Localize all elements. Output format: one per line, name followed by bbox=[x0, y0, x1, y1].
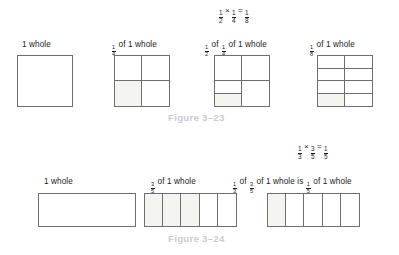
label-one-whole-rectangle: 1 whole bbox=[44, 178, 73, 186]
equation-half-times-quarter: 1 2 × 1 4 = 1 8 bbox=[218, 6, 250, 24]
cell bbox=[318, 56, 345, 69]
cell-shaded bbox=[318, 94, 345, 107]
diagram-half-of-one-fourth-square bbox=[214, 55, 270, 107]
equation-third-times-three-fifths: 1 3 × 3 5 = 1 5 bbox=[297, 142, 329, 160]
cell bbox=[345, 81, 372, 94]
cell-split bbox=[215, 81, 242, 106]
fraction-one-third: 1 3 bbox=[298, 146, 303, 160]
cell-shaded bbox=[163, 194, 181, 226]
diagram-one-third-of-three-fifths-rectangle bbox=[267, 193, 360, 227]
fraction-one-half: 1 2 bbox=[219, 10, 224, 24]
cell bbox=[142, 81, 169, 106]
cell bbox=[242, 56, 269, 81]
equals-operator: = bbox=[238, 6, 243, 15]
figure-caption-3-23: Figure 3–23 bbox=[168, 112, 225, 123]
fraction-one-eighth: 1 8 bbox=[245, 10, 250, 24]
cell bbox=[18, 56, 72, 106]
cell-shaded bbox=[145, 194, 163, 226]
diagram-one-whole-rectangle bbox=[38, 193, 136, 227]
cell bbox=[318, 81, 345, 94]
cell bbox=[345, 94, 372, 107]
cell-shaded bbox=[268, 194, 286, 226]
subcell bbox=[215, 81, 241, 94]
cell bbox=[318, 69, 345, 82]
cell-shaded bbox=[115, 81, 142, 106]
diagram-one-whole-square bbox=[17, 55, 73, 107]
multiply-operator: × bbox=[304, 142, 309, 151]
diagram-three-fifths-rectangle bbox=[144, 193, 237, 227]
cell bbox=[345, 56, 372, 69]
cell bbox=[215, 56, 242, 81]
cell bbox=[286, 194, 304, 226]
fraction-one-fifth: 1 5 bbox=[324, 146, 329, 160]
cell bbox=[345, 69, 372, 82]
cell bbox=[218, 194, 236, 226]
cell bbox=[200, 194, 218, 226]
multiply-operator: × bbox=[225, 6, 230, 15]
cell bbox=[323, 194, 341, 226]
subcell-shaded bbox=[215, 94, 241, 107]
figure-caption-3-24: Figure 3–24 bbox=[168, 233, 225, 244]
cell bbox=[304, 194, 322, 226]
cell bbox=[341, 194, 359, 226]
cell bbox=[142, 56, 169, 81]
diagram-one-fourth-square bbox=[114, 55, 170, 107]
fraction-three-fifths: 3 5 bbox=[311, 146, 316, 160]
figure-3-24-block: 1 3 × 3 5 = 1 5 1 whole 3 5 of 1 whole 1… bbox=[0, 130, 399, 255]
label-one-whole-square: 1 whole bbox=[22, 41, 51, 49]
cell bbox=[115, 56, 142, 81]
equals-operator: = bbox=[317, 142, 322, 151]
cell bbox=[39, 194, 135, 226]
diagram-one-eighth-square bbox=[317, 55, 373, 107]
figure-3-23-block: 1 2 × 1 4 = 1 8 1 whole 1 4 of 1 whole 1… bbox=[0, 0, 399, 130]
cell-shaded bbox=[181, 194, 199, 226]
cell bbox=[242, 81, 269, 106]
fraction-one-fourth: 1 4 bbox=[232, 10, 237, 24]
